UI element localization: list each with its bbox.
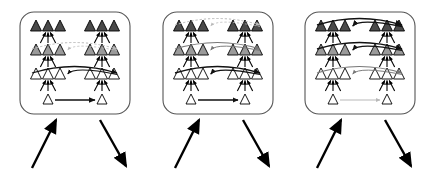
figure-container [0,0,429,174]
input-arrow[interactable] [317,120,341,168]
panels-root [20,12,415,168]
panel-2 [163,12,273,168]
diagram-canvas [0,0,429,174]
panel-3 [305,12,415,168]
output-arrow[interactable] [243,120,269,166]
panel-1 [20,12,130,168]
input-arrow[interactable] [175,120,199,168]
output-arrow[interactable] [100,120,126,166]
output-arrow[interactable] [385,120,411,166]
input-arrow[interactable] [32,120,56,168]
